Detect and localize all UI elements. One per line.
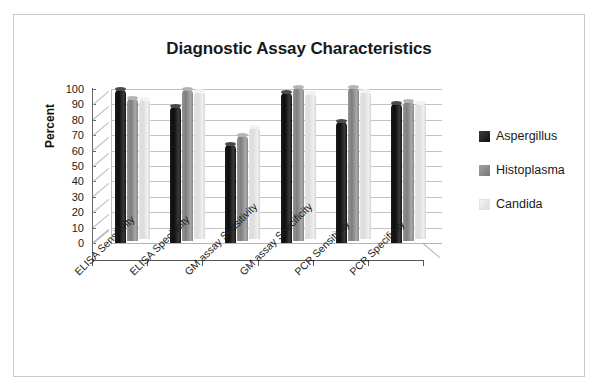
legend-item[interactable]: Candida xyxy=(479,187,599,221)
y-tick-label: 90 xyxy=(60,99,84,110)
y-tick-label: 0 xyxy=(60,238,84,249)
bar-cap xyxy=(249,125,260,129)
x-axis-category-labels: ELISA SensitivityELISA SpecificityGM ass… xyxy=(14,265,484,375)
floor-right-edge xyxy=(423,243,440,258)
bar-cap xyxy=(305,91,316,95)
depth-connector-line xyxy=(92,91,109,106)
depth-connector-line xyxy=(92,199,109,214)
bar[interactable] xyxy=(348,87,359,241)
depth-connector-line xyxy=(92,137,109,152)
bar[interactable] xyxy=(249,127,260,239)
depth-connector-line xyxy=(92,183,109,198)
bar-cap xyxy=(391,101,402,105)
y-tick-label: 10 xyxy=(60,223,84,234)
bar[interactable] xyxy=(139,99,150,239)
legend-swatch-icon xyxy=(479,199,490,210)
y-tick-label: 40 xyxy=(60,176,84,187)
bar-cap xyxy=(293,85,304,89)
bar-cap xyxy=(336,119,347,123)
bar-cap xyxy=(281,90,292,94)
bar[interactable] xyxy=(403,101,414,241)
legend-label: Histoplasma xyxy=(496,163,565,177)
y-tick-label: 30 xyxy=(60,192,84,203)
depth-connector-line xyxy=(92,168,109,183)
depth-connector-line xyxy=(92,214,109,229)
legend-item[interactable]: Aspergillus xyxy=(479,119,599,153)
bar-cap xyxy=(139,97,150,101)
chart-title: Diagnostic Assay Characteristics xyxy=(14,39,584,59)
bar-cap xyxy=(237,133,248,137)
bar-cap xyxy=(115,87,126,91)
y-axis-title: Percent xyxy=(43,104,57,148)
bar-cap xyxy=(360,89,371,93)
bar[interactable] xyxy=(305,93,316,239)
bar-cap xyxy=(415,101,426,105)
y-tick-label: 20 xyxy=(60,207,84,218)
depth-connector-line xyxy=(92,122,109,137)
y-tick-label: 50 xyxy=(60,161,84,172)
chart-legend: AspergillusHistoplasmaCandida xyxy=(479,119,599,221)
y-tick-label: 70 xyxy=(60,130,84,141)
y-axis-line xyxy=(92,88,93,260)
y-tick-label: 80 xyxy=(60,115,84,126)
y-tick-label: 100 xyxy=(60,84,84,95)
y-tick-label: 60 xyxy=(60,146,84,157)
legend-label: Aspergillus xyxy=(496,129,557,143)
bar-cap xyxy=(170,104,181,108)
legend-swatch-icon xyxy=(479,165,490,176)
depth-connector-line xyxy=(92,106,109,121)
bar-cap xyxy=(225,142,236,146)
bar-cap xyxy=(403,99,414,103)
bar-cap xyxy=(127,96,138,100)
bar[interactable] xyxy=(360,91,371,239)
bar-cap xyxy=(182,87,193,91)
bar[interactable] xyxy=(415,103,426,239)
legend-item[interactable]: Histoplasma xyxy=(479,153,599,187)
y-axis-tick-labels: 1009080706050403020100 xyxy=(56,89,84,261)
chart-figure-frame: Diagnostic Assay Characteristics Percent… xyxy=(13,14,585,377)
bar[interactable] xyxy=(194,91,205,239)
bar-cap xyxy=(194,89,205,93)
legend-label: Candida xyxy=(496,197,543,211)
depth-connector-line xyxy=(92,153,109,168)
legend-swatch-icon xyxy=(479,131,490,142)
bar-cap xyxy=(348,85,359,89)
